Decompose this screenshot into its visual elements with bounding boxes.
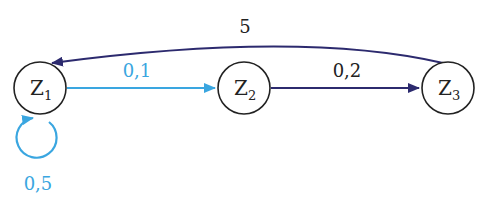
node-z3: Z 3 bbox=[422, 62, 474, 114]
node-z1-letter: Z bbox=[30, 76, 44, 100]
edge-z1-z2: 0,1 bbox=[67, 60, 215, 88]
edge-z3-z1: 5 bbox=[52, 16, 443, 63]
node-z2: Z 2 bbox=[218, 62, 270, 114]
edge-z1-self-loop: 0,5 bbox=[17, 118, 57, 194]
state-diagram: 5 0,1 0,2 0,5 Z 1 Z 2 Z 3 bbox=[0, 0, 485, 207]
edge-label-z1-z2: 0,1 bbox=[123, 60, 152, 81]
node-z1: Z 1 bbox=[14, 62, 66, 114]
edge-z2-z3: 0,2 bbox=[271, 60, 419, 88]
node-z1-subscript: 1 bbox=[44, 88, 52, 103]
edge-label-z1-self: 0,5 bbox=[24, 173, 53, 194]
node-z3-letter: Z bbox=[438, 76, 452, 100]
edge-label-z2-z3: 0,2 bbox=[333, 60, 362, 81]
edge-label-z3-z1: 5 bbox=[239, 16, 250, 37]
node-z2-subscript: 2 bbox=[248, 88, 256, 103]
node-z3-subscript: 3 bbox=[452, 88, 460, 103]
node-z2-letter: Z bbox=[234, 76, 248, 100]
